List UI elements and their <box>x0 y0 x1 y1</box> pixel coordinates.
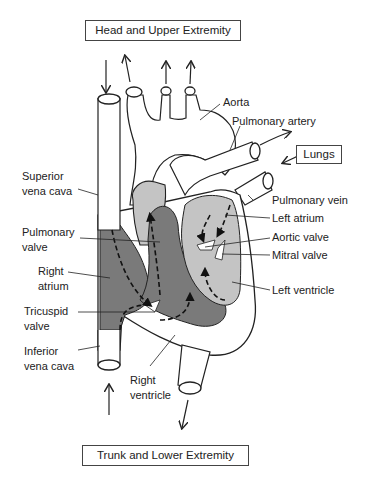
label-line: valve <box>24 320 68 333</box>
label-line: Right <box>130 374 171 387</box>
label-line: Pulmonary <box>22 226 75 239</box>
label-pulmonary-valve: Pulmonary valve <box>22 226 75 254</box>
head-upper-extremity-box: Head and Upper Extremity <box>85 20 241 41</box>
descending-aorta-shape <box>178 345 210 394</box>
label-left-ventricle: Left ventricle <box>272 284 334 297</box>
label-line: Inferior <box>24 345 74 358</box>
label-right-atrium: Right atrium <box>38 265 69 293</box>
label-pulmonary-vein: Pulmonary vein <box>272 194 348 207</box>
label-pulmonary-artery: Pulmonary artery <box>232 115 316 128</box>
label-right-ventricle: Right ventricle <box>130 374 171 402</box>
label-mitral-valve: Mitral valve <box>272 249 328 262</box>
trunk-lower-extremity-box: Trunk and Lower Extremity <box>82 445 249 466</box>
label-line: ventricle <box>130 389 171 402</box>
label-line: Right <box>38 265 69 278</box>
superior-vena-cava-shape <box>98 94 120 230</box>
label-aorta: Aorta <box>223 96 249 109</box>
label-aortic-valve: Aortic valve <box>272 231 329 244</box>
label-line: valve <box>22 241 75 254</box>
inferior-vena-cava-shape <box>98 330 120 370</box>
label-inferior-vena-cava: Inferior vena cava <box>24 345 74 373</box>
label-left-atrium: Left atrium <box>272 212 324 225</box>
label-line: Superior <box>22 170 72 183</box>
label-line: vena cava <box>24 360 74 373</box>
label-line: Tricuspid <box>24 305 68 318</box>
label-superior-vena-cava: Superior vena cava <box>22 170 72 198</box>
label-tricuspid-valve: Tricuspid valve <box>24 305 68 333</box>
lungs-box: Lungs <box>296 145 342 164</box>
label-line: atrium <box>38 280 69 293</box>
label-line: vena cava <box>22 185 72 198</box>
